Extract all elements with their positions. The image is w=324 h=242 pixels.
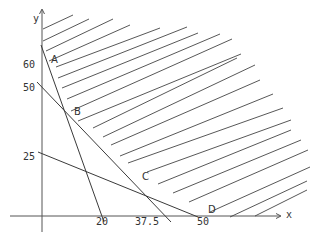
y-axis-label: y bbox=[33, 14, 39, 24]
x-tick-50: 50 bbox=[197, 217, 209, 227]
feasible-region-hatching bbox=[43, 15, 310, 217]
x-tick-20: 20 bbox=[96, 217, 108, 227]
x-axis-label: x bbox=[286, 210, 292, 220]
constraint-line-60-20 bbox=[41, 45, 104, 222]
x-tick-37.5: 37.5 bbox=[135, 217, 159, 227]
vertex-label-b: B bbox=[74, 107, 81, 117]
vertex-label-c: C bbox=[142, 172, 149, 182]
constraint-lines bbox=[37, 45, 198, 222]
vertex-label-a: A bbox=[51, 55, 58, 65]
vertex-label-d: D bbox=[208, 205, 216, 215]
constraint-line-25-50 bbox=[38, 152, 198, 217]
feasible-region-diagram: y x 60 50 25 20 37.5 50 A B C D bbox=[0, 0, 324, 242]
y-tick-25: 25 bbox=[23, 152, 35, 162]
y-tick-50: 50 bbox=[23, 83, 35, 93]
y-tick-60: 60 bbox=[23, 60, 35, 70]
constraint-line-50-37.5 bbox=[37, 82, 171, 222]
